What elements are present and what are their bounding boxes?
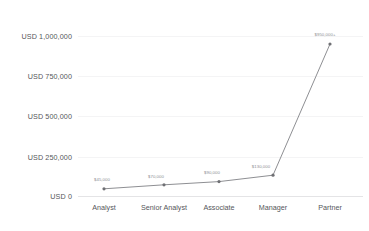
x-tick-label-senior-analyst: Senior Analyst <box>141 203 187 212</box>
series-line <box>104 44 330 189</box>
series-markers <box>102 42 331 190</box>
data-point-associate <box>217 180 220 183</box>
data-label-senior-analyst: $70,000 <box>148 174 164 179</box>
data-label-partner: $950,000+ <box>315 32 336 37</box>
data-point-analyst <box>102 187 105 190</box>
line-chart: USD 1,000,000 USD 750,000 USD 500,000 US… <box>0 0 369 231</box>
x-tick-label-manager: Manager <box>259 203 287 212</box>
x-tick-label-associate: Associate <box>203 203 234 212</box>
data-label-analyst: $45,000 <box>94 177 110 182</box>
data-point-partner <box>328 42 331 45</box>
data-point-senior-analyst <box>162 183 165 186</box>
data-label-associate: $90,000 <box>204 170 220 175</box>
x-tick-label-partner: Partner <box>318 203 342 212</box>
x-tick-label-analyst: Analyst <box>92 203 116 212</box>
data-label-manager: $130,000 <box>252 164 270 169</box>
data-point-manager <box>271 174 274 177</box>
